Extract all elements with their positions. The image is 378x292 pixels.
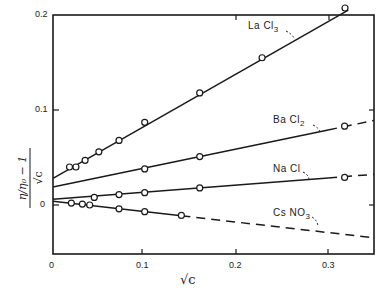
lacl3-label-sub: 3 xyxy=(274,25,279,34)
data-point xyxy=(142,119,148,125)
series-label-bacl2: Ba Cl2 xyxy=(273,114,305,128)
x-tick-label-0.1: 0.1 xyxy=(136,260,149,270)
data-point xyxy=(87,202,93,208)
lacl3-label-main: La Cl xyxy=(248,20,274,31)
series-layer xyxy=(53,10,374,238)
nacl-label-main: Na Cl xyxy=(273,163,301,174)
csno3-label-main: Cs NO xyxy=(273,207,306,218)
data-point xyxy=(79,201,85,207)
data-point xyxy=(68,200,74,206)
data-point xyxy=(67,164,73,170)
data-point xyxy=(342,174,348,180)
bacl2-label-sub: 2 xyxy=(300,119,305,128)
series-line-solid xyxy=(53,130,328,187)
csno3-label-sub: 3 xyxy=(306,212,311,221)
y-tick-label-0.1: 0.1 xyxy=(35,104,48,114)
y-ticks xyxy=(53,110,374,205)
plot-frame xyxy=(53,15,374,254)
data-point xyxy=(91,194,97,200)
data-point xyxy=(178,212,184,218)
series-label-lacl3: La Cl3 xyxy=(248,20,279,34)
data-point xyxy=(116,206,122,212)
data-point xyxy=(73,164,79,170)
x-axis-label: √c xyxy=(180,272,196,287)
x-tick-label-0.2: 0.2 xyxy=(229,260,242,270)
data-point xyxy=(197,154,203,160)
data-point xyxy=(142,190,148,196)
x-tick-label-0: 0 xyxy=(49,260,54,270)
data-point xyxy=(142,209,148,215)
data-point xyxy=(116,192,122,198)
series-label-nacl: Na Cl xyxy=(273,163,301,174)
data-point xyxy=(197,185,203,191)
y-tick-label-0.2: 0.2 xyxy=(35,9,48,19)
svg-text:√c: √c xyxy=(32,171,45,184)
data-point xyxy=(96,149,102,155)
series-label-csno3: Cs NO3 xyxy=(273,207,310,221)
data-point xyxy=(82,157,88,163)
data-point xyxy=(197,90,203,96)
series-line-dashed xyxy=(328,174,374,178)
y-tick-label-0: 0 xyxy=(40,199,45,209)
outlier-point xyxy=(342,5,348,11)
data-point xyxy=(259,55,265,61)
bacl2-label-main: Ba Cl xyxy=(273,114,300,125)
series-line-dashed xyxy=(328,120,374,130)
data-point xyxy=(342,123,348,129)
data-point xyxy=(116,137,122,143)
label-leaders xyxy=(286,31,320,227)
x-tick-label-0.3: 0.3 xyxy=(322,260,335,270)
data-point xyxy=(142,166,148,172)
chart-canvas: η/η₀ − 1 √c xyxy=(0,0,378,292)
svg-text:η/η₀ − 1: η/η₀ − 1 xyxy=(16,156,29,201)
